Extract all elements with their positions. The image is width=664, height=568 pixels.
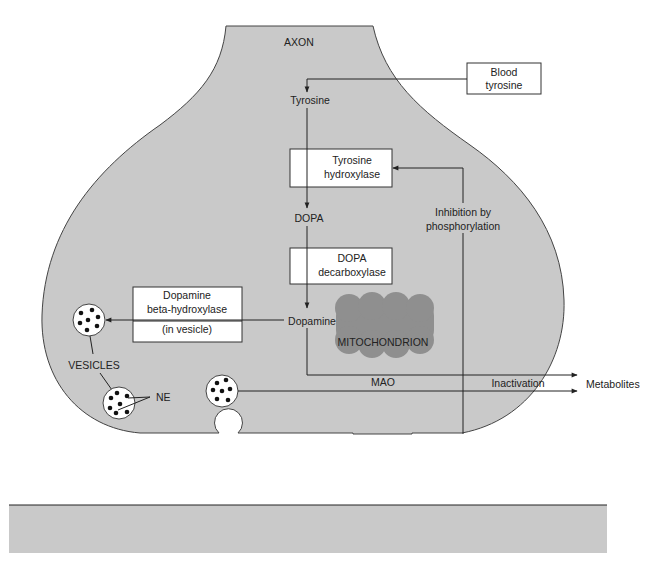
vesicles-label: VESICLES xyxy=(68,359,119,371)
inhibition-label-2: phosphorylation xyxy=(426,220,500,232)
mitochondrion-label: MITOCHONDRION xyxy=(338,336,429,348)
noradrenergic-synapse-diagram: AXON Blood tyrosine Tyrosine Tyrosine hy… xyxy=(0,0,664,568)
blood-tyrosine-label-2: tyrosine xyxy=(486,79,523,91)
dbh-label-3: (in vesicle) xyxy=(162,323,212,335)
dbh-label: Dopamine xyxy=(163,289,211,301)
dopa-decarboxylase-label-2: decarboxylase xyxy=(318,266,386,278)
dbh-label-2: beta-hydroxylase xyxy=(147,303,227,315)
tyrosine-label: Tyrosine xyxy=(290,94,330,106)
inhibition-label: Inhibition by xyxy=(435,206,492,218)
dopamine-label: Dopamine xyxy=(288,315,336,327)
axon-label: AXON xyxy=(284,36,314,48)
ne-label: NE xyxy=(156,391,171,403)
postsynaptic-membrane xyxy=(9,505,607,553)
tyrosine-hydroxylase-label-2: hydroxylase xyxy=(324,168,380,180)
vesicle-1 xyxy=(73,304,105,336)
blood-tyrosine-label: Blood xyxy=(491,66,518,78)
mao-label: MAO xyxy=(371,376,395,388)
tyrosine-hydroxylase-label: Tyrosine xyxy=(332,154,372,166)
dopa-label: DOPA xyxy=(295,212,324,224)
metabolites-mao-label: Metabolites xyxy=(586,378,640,390)
vesicle-2 xyxy=(103,387,135,419)
mitochondrion xyxy=(335,292,434,358)
inactivation-mao-label: Inactivation xyxy=(491,377,544,389)
dopa-decarboxylase-label: DOPA xyxy=(338,252,367,264)
vesicle-3 xyxy=(206,375,238,407)
